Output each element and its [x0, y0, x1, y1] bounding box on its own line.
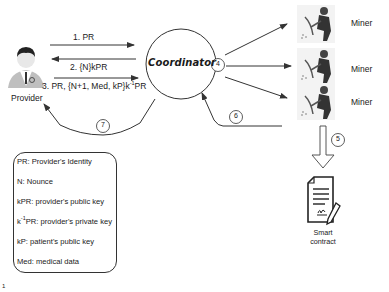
smart-contract-label-line1: Smart — [306, 228, 340, 237]
miner-icon — [297, 84, 335, 120]
step-5-label: 5 — [334, 135, 342, 142]
legend-private-key-text: PR: provider's private key — [26, 217, 112, 226]
legend-box: PR: Provider's Identity N: Nounce kPR: p… — [13, 152, 117, 273]
arrow-to-miner-1 — [225, 24, 287, 55]
miner-1-label: Miner — [351, 18, 372, 28]
smart-contract-document-icon — [308, 177, 340, 224]
corner-mark: 1 — [2, 283, 5, 289]
smart-contract-label: Smart contract — [306, 228, 340, 246]
message-1-label: 1. PR — [73, 32, 94, 42]
legend-item-kpr: kPR: provider's public key — [17, 197, 104, 206]
message-2-label: 2. {N}kPR — [70, 62, 107, 72]
step-6-label: 6 — [232, 112, 240, 119]
miner-2-label: Miner — [351, 64, 372, 74]
provider-label: Provider — [11, 93, 43, 103]
miner-3-label: Miner — [351, 97, 372, 107]
step-4-label: 4 — [214, 60, 222, 67]
block-arrow-down-icon — [312, 126, 334, 168]
legend-item-med: Med: medical data — [17, 257, 79, 266]
legend-item-nounce: N: Nounce — [17, 177, 53, 186]
legend-item-private-key: k-1PR: provider's private key — [17, 217, 112, 226]
message-3-label: 3. PR, {N+1, Med, kP}k-1PR — [42, 81, 146, 91]
legend-item-pr: PR: Provider's Identity — [17, 157, 92, 166]
message-3-prefix: 3. PR, {N+1, Med, kP}k — [42, 81, 130, 91]
step-7-label: 7 — [99, 121, 107, 128]
arrow-to-miner-3 — [225, 77, 287, 98]
arrow-step-6 — [202, 93, 282, 126]
coordinator-label: Coordinator — [148, 57, 216, 68]
miner-icon — [297, 5, 335, 43]
smart-contract-label-line2: contract — [306, 237, 340, 246]
miner-icon — [297, 48, 335, 84]
legend-item-kp: kP: patient's public key — [17, 237, 94, 246]
provider-avatar-icon — [8, 47, 44, 88]
message-3-suffix: PR — [135, 81, 147, 91]
